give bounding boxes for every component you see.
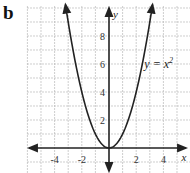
x-tick-label: -4 xyxy=(50,154,58,165)
equation-label: y = x2 xyxy=(143,56,173,71)
x-tick-label: -2 xyxy=(78,154,86,165)
y-tick-label: 4 xyxy=(100,87,105,98)
y-tick-label: 8 xyxy=(100,31,105,42)
chart: -4-2242468xyy = x2 xyxy=(0,0,190,173)
axes xyxy=(29,8,186,171)
x-tick-label: 2 xyxy=(134,154,139,165)
y-tick-label: 2 xyxy=(100,115,105,126)
y-tick-label: 6 xyxy=(100,59,105,70)
x-axis-label: x xyxy=(181,151,187,163)
x-tick-label: 4 xyxy=(161,154,166,165)
y-axis-label: y xyxy=(112,8,118,20)
